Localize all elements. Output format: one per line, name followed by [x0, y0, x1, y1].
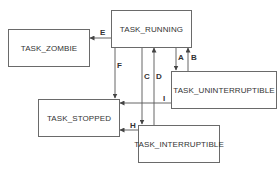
- transition-label-a: A: [178, 54, 184, 62]
- state-task-interruptible: TASK_INTERRUPTIBLE: [138, 125, 220, 163]
- state-task-running: TASK_RUNNING: [111, 10, 192, 48]
- state-diagram: TASK_RUNNING TASK_ZOMBIE TASK_STOPPED TA…: [0, 0, 277, 171]
- state-label: TASK_ZOMBIE: [21, 44, 78, 53]
- state-label: TASK_UNINTERRUPTIBLE: [173, 86, 274, 95]
- transition-label-i: I: [163, 95, 165, 103]
- transition-label-b: B: [191, 54, 197, 62]
- state-task-stopped: TASK_STOPPED: [38, 99, 120, 137]
- state-label: TASK_RUNNING: [120, 25, 183, 34]
- transition-label-d: D: [156, 73, 162, 81]
- state-label: TASK_INTERRUPTIBLE: [134, 140, 224, 149]
- transition-label-e: E: [100, 29, 105, 37]
- transition-label-h: H: [130, 122, 136, 130]
- state-task-zombie: TASK_ZOMBIE: [8, 29, 90, 67]
- transition-label-f: F: [117, 62, 122, 70]
- state-task-uninterruptible: TASK_UNINTERRUPTIBLE: [171, 71, 277, 109]
- transition-label-c: C: [144, 73, 150, 81]
- state-label: TASK_STOPPED: [47, 114, 111, 123]
